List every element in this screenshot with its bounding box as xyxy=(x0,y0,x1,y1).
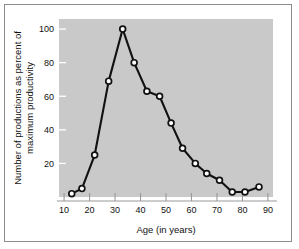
plot-area-background xyxy=(59,19,273,197)
y-axis-tick-label: 20 xyxy=(44,159,54,169)
data-point-marker xyxy=(79,186,85,192)
y-axis-tick-labels: 20406080100 xyxy=(39,24,54,168)
x-axis-title: Age (in years) xyxy=(136,224,195,235)
x-axis-tick-label: 70 xyxy=(212,205,222,215)
data-point-marker xyxy=(131,60,137,66)
data-point-marker xyxy=(204,171,210,177)
data-point-marker xyxy=(229,189,235,195)
data-point-marker xyxy=(168,120,174,126)
data-point-marker xyxy=(157,93,163,99)
y-axis-title-line-2: maximum productivity xyxy=(24,62,35,154)
x-axis-tick-label: 60 xyxy=(186,205,196,215)
x-axis-tick-label: 10 xyxy=(59,205,69,215)
y-axis-tick-label: 100 xyxy=(39,24,54,34)
data-point-marker xyxy=(256,184,262,190)
x-axis-tick-label: 40 xyxy=(136,205,146,215)
data-point-marker xyxy=(144,88,150,94)
y-axis-tick-label: 60 xyxy=(44,92,54,102)
x-axis-tick-label: 20 xyxy=(85,205,95,215)
line-chart: 20406080100 102030405060708090 Age (in y… xyxy=(5,5,293,243)
data-point-marker xyxy=(180,145,186,151)
figure-frame: 20406080100 102030405060708090 Age (in y… xyxy=(4,4,292,242)
data-point-marker xyxy=(69,191,75,197)
y-axis-tick-label: 80 xyxy=(44,58,54,68)
data-point-marker xyxy=(192,161,198,167)
x-axis-tick-label: 90 xyxy=(263,205,273,215)
data-point-marker xyxy=(242,189,248,195)
x-axis-tick-label: 80 xyxy=(237,205,247,215)
x-axis-tick-label: 50 xyxy=(161,205,171,215)
x-axis-tick-labels: 102030405060708090 xyxy=(59,205,273,215)
data-point-marker xyxy=(217,177,223,183)
x-axis-tick-label: 30 xyxy=(110,205,120,215)
data-point-marker xyxy=(92,152,98,158)
y-axis-title-line-1: Number of productions as percent of xyxy=(12,31,23,185)
data-point-marker xyxy=(120,26,126,32)
data-point-marker xyxy=(106,78,112,84)
y-axis-tick-label: 40 xyxy=(44,125,54,135)
